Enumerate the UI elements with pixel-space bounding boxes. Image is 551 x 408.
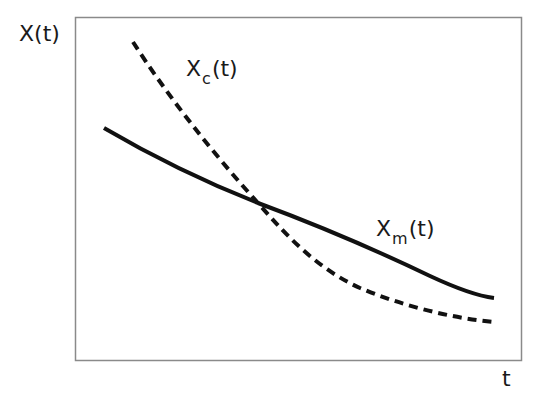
y-axis-label: X(t) xyxy=(19,23,60,45)
chart-canvas xyxy=(0,0,551,408)
x-axis-label: t xyxy=(502,368,511,390)
series-xm-label: Xm(t) xyxy=(376,218,434,240)
plot-frame xyxy=(76,18,522,361)
series-xm-solid-line xyxy=(104,128,494,298)
series-xc-label: Xc(t) xyxy=(186,58,238,80)
